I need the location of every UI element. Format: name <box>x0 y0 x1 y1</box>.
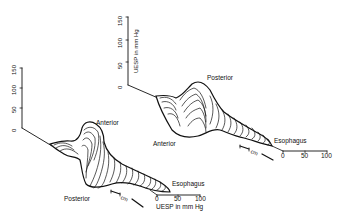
left-plot-surface <box>50 122 170 192</box>
left-label-esophagus: Esophagus <box>172 181 205 188</box>
left-z-tick-150: 150 <box>11 65 17 75</box>
left-scale-title: UESP in mm Hg <box>156 204 203 211</box>
right-scale-tick-0: 0 <box>281 153 285 160</box>
right-label-posterior: Posterior <box>207 75 233 82</box>
left-scale-tick-0: 0 <box>155 196 159 203</box>
left-z-tick-0: 0 <box>11 129 17 132</box>
left-z-tick-100: 100 <box>11 85 17 95</box>
figure: 0 50 100 150 Anterior Posterior Esophagu… <box>0 0 344 218</box>
left-scale-tick-50: 50 <box>174 196 181 203</box>
left-label-anterior: Anterior <box>96 120 119 127</box>
right-z-tick-100: 100 <box>117 38 123 48</box>
left-z-tick-50: 50 <box>11 106 17 113</box>
left-plot-axes <box>20 68 52 146</box>
right-z-tick-150: 150 <box>117 16 123 26</box>
right-label-anterior: Anterior <box>153 141 176 148</box>
left-scale-tick-100: 100 <box>195 196 206 203</box>
left-label-posterior: Posterior <box>64 196 90 203</box>
right-z-tick-0: 0 <box>117 86 123 89</box>
right-plot-axes <box>126 17 158 98</box>
right-z-tick-50: 50 <box>117 62 123 69</box>
right-z-axis-title: UESP in mm Hg <box>133 29 139 73</box>
right-label-esophagus: Esophagus <box>274 138 307 145</box>
right-scale-tick-50: 50 <box>301 153 308 160</box>
right-plot-surface <box>156 82 272 146</box>
right-scale-tick-100: 100 <box>321 153 332 160</box>
